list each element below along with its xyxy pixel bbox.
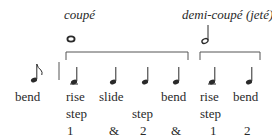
beat-6-count: 2: [244, 124, 251, 137]
beat-4-count: &: [171, 124, 181, 137]
beat-3-count: 2: [140, 124, 147, 137]
beat-1-word-1: rise: [66, 90, 85, 103]
beat-5-word-2: step: [200, 107, 221, 120]
quarter-note-icon: [208, 67, 216, 85]
eighth-note-icon: [30, 64, 42, 83]
beat-2-count: &: [109, 124, 119, 137]
quarter-note-icon: [70, 67, 78, 85]
whole-note-icon: [67, 36, 74, 41]
coupe-bracket: [66, 52, 188, 60]
beat-5-count: 1: [210, 124, 217, 137]
beat-4-word-1: bend: [161, 90, 186, 103]
beat-3-word-2: step: [132, 107, 153, 120]
beat-1-count: 1: [67, 124, 74, 137]
beat-1-word-2: step: [66, 107, 87, 120]
beat-2-word-1: slide: [99, 90, 124, 103]
quarter-note-icon: [245, 67, 253, 85]
quarter-note-icon: [141, 67, 149, 85]
beat-5-word-1: rise: [200, 90, 219, 103]
quarter-note-icon: [109, 67, 117, 85]
beat-6-word-1: bend: [233, 90, 258, 103]
quarter-note-icon: [172, 67, 180, 85]
half-note-icon: [201, 25, 209, 44]
lead-label: bend: [15, 90, 40, 103]
demi-coupe-bracket: [200, 52, 260, 60]
